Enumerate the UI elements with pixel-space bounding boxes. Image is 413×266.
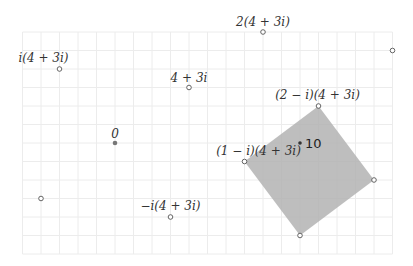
label-iz: i(4 + 3i) <box>19 51 69 65</box>
point-neg-iz <box>168 215 173 220</box>
point-origin <box>113 141 118 146</box>
label-origin: 0 <box>111 127 119 141</box>
point-corner-14-2i <box>372 178 377 183</box>
point-corner-10-5i <box>298 233 303 238</box>
label-neg-iz: −i(4 + 3i) <box>140 199 200 213</box>
label-1-i-z: (1 − i)(4 + 3i) <box>216 144 301 158</box>
point-iz <box>57 67 62 72</box>
point-z <box>187 85 192 90</box>
label-2z: 2(4 + 3i) <box>235 15 290 29</box>
point-2z <box>261 30 266 35</box>
point-p-neg4-neg3i <box>39 196 44 201</box>
label-z: 4 + 3i <box>170 71 208 85</box>
point-1-i-z <box>242 159 247 164</box>
complex-plane-diagram: 04 + 3i2(4 + 3i)i(4 + 3i)−i(4 + 3i)(2 − … <box>0 0 413 266</box>
rotated-square <box>245 106 375 236</box>
label-ten: 10 <box>305 136 322 151</box>
complex-plane: 04 + 3i2(4 + 3i)i(4 + 3i)−i(4 + 3i)(2 − … <box>0 0 413 266</box>
points-layer <box>39 30 395 238</box>
label-2-i-z: (2 − i)(4 + 3i) <box>275 88 360 102</box>
point-2-i-z <box>316 104 321 109</box>
point-p-15-5i <box>390 48 395 53</box>
